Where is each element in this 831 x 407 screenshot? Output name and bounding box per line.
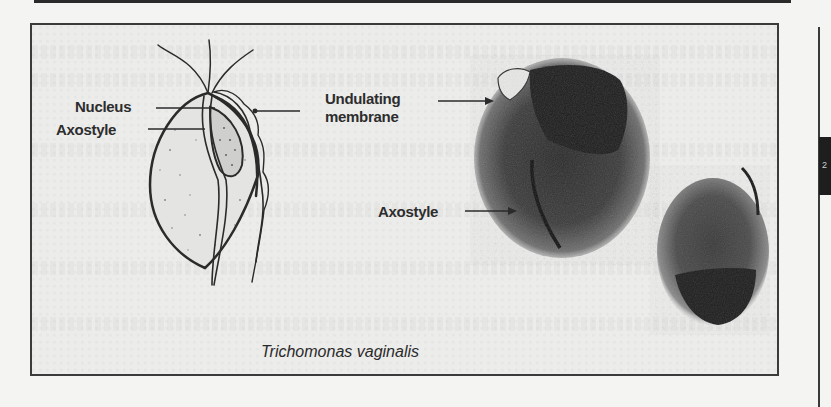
label-axostyle-drawing: Axostyle [56,121,116,138]
label-axostyle-micrograph: Axostyle [378,203,438,220]
label-undulating-membrane-line1: Undulating [325,90,400,107]
label-nucleus: Nucleus [75,98,131,115]
label-undulating-membrane-line2: membrane [325,108,398,125]
micrograph-cell-2 [650,165,770,335]
trichomonas-drawing [150,40,268,285]
micrograph-cell-1 [470,55,660,265]
figure-caption: Trichomonas vaginalis [261,343,419,361]
